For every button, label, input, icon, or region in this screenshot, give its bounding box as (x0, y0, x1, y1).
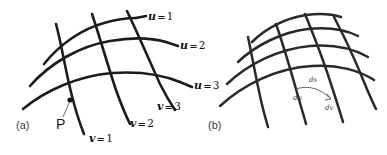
label-v-equals-3-eq: = (165, 101, 174, 112)
b-v-curve-2 (276, 24, 306, 124)
label-u-equals-2-eq: = (189, 40, 198, 51)
label-v-equals-1-eq: = (97, 133, 106, 144)
point-p-label: P (56, 117, 65, 131)
label-u-equals-1-value: 1 (167, 10, 174, 22)
label-u-equals-3-var: u (194, 79, 202, 92)
label-u-equals-1-eq: = (157, 11, 166, 22)
label-ds: ds (309, 77, 317, 84)
b-u-curve-3 (227, 46, 368, 84)
panel-b-grid (220, 14, 376, 127)
label-u-equals-3-eq: = (203, 80, 212, 91)
label-u-equals-2-value: 2 (199, 39, 206, 51)
label-u-equals-1: u=1 (148, 11, 174, 22)
label-u-equals-3: u=3 (194, 80, 220, 91)
u1-label-leader (136, 16, 146, 18)
panel-b-caption: (b) (208, 120, 221, 131)
b-v-curve-1 (248, 37, 268, 127)
panel-a-grid (23, 11, 180, 134)
label-v-equals-1-value: 1 (106, 132, 113, 144)
label-v-equals-1-var: v (89, 132, 96, 145)
label-v-equals-2-value: 2 (147, 117, 154, 129)
label-dv: dv (325, 105, 333, 112)
u-curve-2 (30, 38, 166, 86)
label-u-equals-2: u=2 (180, 40, 206, 51)
u2-label-leader (166, 42, 178, 46)
b-u-curve-2 (238, 28, 358, 62)
curvilinear-coordinates-figure: u=1 u=2 u=3 v=1 v=2 v=3 P (a) ds du dv (… (0, 0, 387, 155)
label-v-equals-2: v=2 (130, 118, 154, 129)
u-curve-1 (44, 18, 136, 64)
panel-a-caption: (a) (16, 120, 29, 131)
label-u-equals-3-value: 3 (213, 79, 220, 91)
label-u-equals-1-var: u (148, 10, 156, 23)
point-p-dot (67, 97, 72, 102)
v-curve-3 (127, 11, 175, 110)
label-du: du (293, 95, 302, 102)
label-v-equals-2-var: v (130, 117, 137, 130)
v-curve-2 (92, 14, 130, 124)
label-v-equals-3-var: v (157, 100, 164, 113)
label-v-equals-3: v=3 (157, 101, 181, 112)
u3-label-leader (180, 82, 192, 87)
b-v-curve-4 (334, 17, 376, 109)
label-v-equals-2-eq: = (138, 118, 147, 129)
point-p-leader (63, 103, 69, 117)
label-v-equals-3-value: 3 (174, 100, 181, 112)
label-v-equals-1: v=1 (89, 133, 113, 144)
panel-a-u-curves (23, 18, 180, 109)
label-u-equals-2-var: u (180, 39, 188, 52)
